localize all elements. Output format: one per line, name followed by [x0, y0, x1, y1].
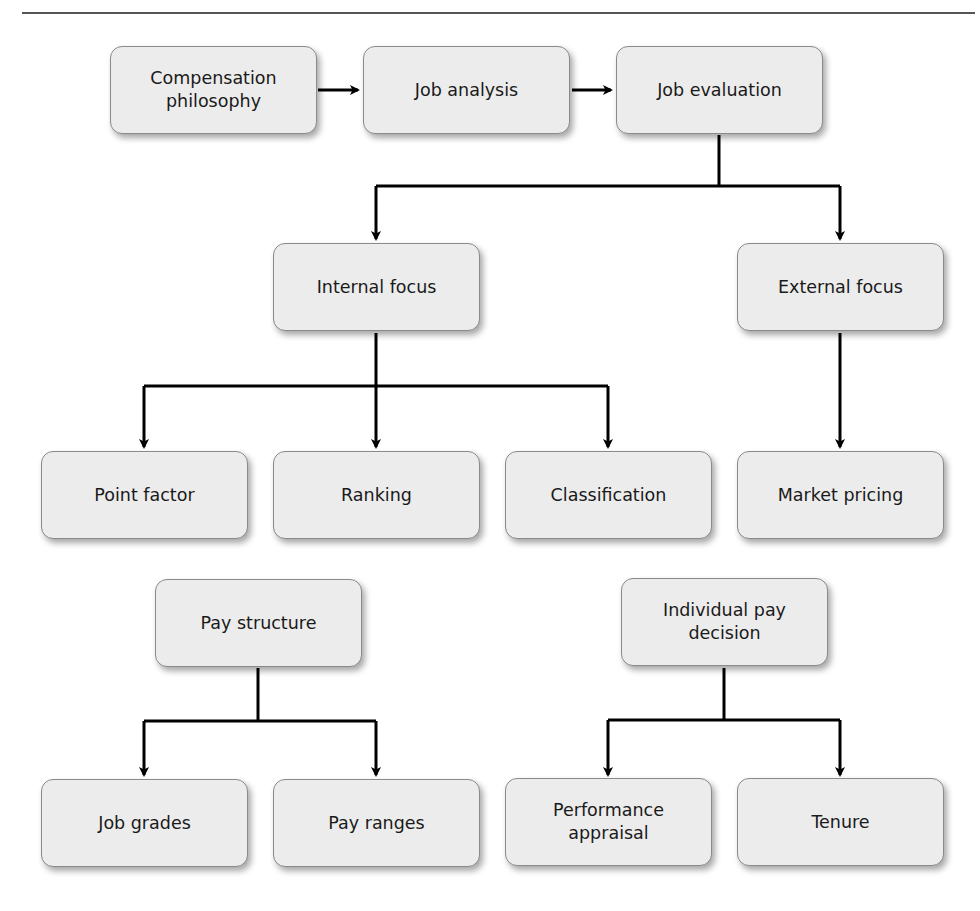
node-individual-pay-decision: Individual pay decision: [621, 578, 828, 666]
node-market-pricing: Market pricing: [737, 451, 944, 539]
node-performance-appraisal: Performance appraisal: [505, 778, 712, 866]
node-job-grades: Job grades: [41, 779, 248, 867]
node-classification: Classification: [505, 451, 712, 539]
node-compensation-philosophy: Compensation philosophy: [110, 46, 317, 134]
node-ranking: Ranking: [273, 451, 480, 539]
node-tenure: Tenure: [737, 778, 944, 866]
node-pay-structure: Pay structure: [155, 579, 362, 667]
node-point-factor: Point factor: [41, 451, 248, 539]
node-external-focus: External focus: [737, 243, 944, 331]
node-internal-focus: Internal focus: [273, 243, 480, 331]
node-job-evaluation: Job evaluation: [616, 46, 823, 134]
node-pay-ranges: Pay ranges: [273, 779, 480, 867]
node-job-analysis: Job analysis: [363, 46, 570, 134]
